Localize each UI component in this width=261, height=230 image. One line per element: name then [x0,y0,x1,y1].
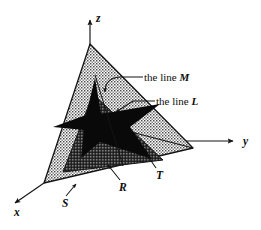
callout-line-m-prefix: the line [144,71,179,83]
region-R-leader [108,165,120,180]
figure-root: z y x R S T the line M the line L [0,0,261,230]
axis-label-z: z [96,13,100,25]
region-label-R: R [119,182,127,194]
callout-line-l-symbol: L [191,95,198,107]
axis-label-y: y [243,136,248,148]
region-label-S: S [62,198,68,210]
region-label-T: T [156,170,163,182]
diagram-canvas [0,0,261,230]
callout-label-line-m: the line M [144,72,189,83]
callout-line-l-prefix: the line [156,95,191,107]
x-axis-line [15,183,44,203]
region-S-leader [66,184,76,196]
callout-line-m-symbol: M [179,71,189,83]
callout-label-line-l: the line L [156,96,198,107]
axis-label-x: x [14,207,20,219]
